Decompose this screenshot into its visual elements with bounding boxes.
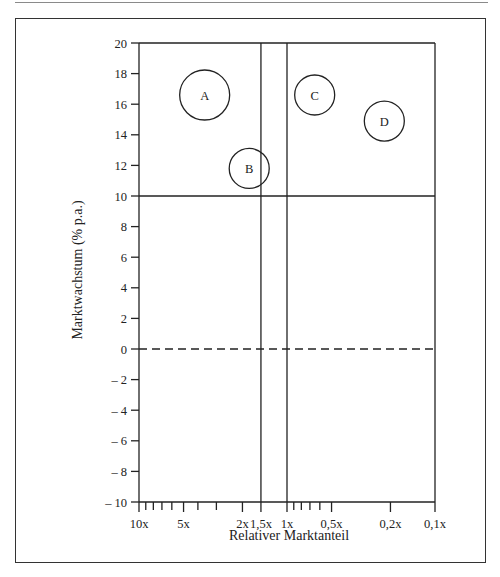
y-tick-label: 6 — [121, 251, 127, 265]
y-tick-label: 8 — [121, 220, 127, 234]
bubble-label: B — [245, 162, 253, 176]
x-tick-label: 10x — [130, 517, 150, 531]
bubble-label: A — [200, 89, 209, 103]
y-tick-label: – 2 — [110, 373, 127, 387]
plot-area: 20181614121086420– 2– 4– 6– 8– 1010x5x2x… — [104, 37, 447, 532]
y-tick-label: 12 — [115, 159, 128, 173]
y-tick-label: – 10 — [104, 496, 127, 510]
y-tick-label: 0 — [121, 343, 127, 357]
bubble-label: C — [311, 89, 319, 103]
y-tick-label: 4 — [121, 281, 128, 295]
y-tick-label: 14 — [115, 128, 128, 142]
y-tick-label: 16 — [115, 98, 128, 112]
x-tick-label: 0,2x — [380, 517, 403, 531]
y-tick-label: – 8 — [110, 465, 127, 479]
y-tick-label: 2 — [121, 312, 127, 326]
x-tick-label: 0,1x — [424, 517, 447, 531]
y-tick-label: 18 — [115, 67, 128, 81]
y-tick-label: – 4 — [110, 404, 127, 418]
bcg-matrix-chart: 20181614121086420– 2– 4– 6– 8– 1010x5x2x… — [0, 0, 500, 577]
bubble-label: D — [380, 115, 389, 129]
y-axis-title: Marktwachstum (% p.a.) — [70, 200, 86, 340]
y-tick-label: 20 — [115, 37, 128, 51]
y-tick-label: 10 — [115, 190, 128, 204]
x-tick-label: 5x — [177, 517, 190, 531]
x-axis-title: Relativer Marktanteil — [229, 528, 349, 543]
y-tick-label: – 6 — [110, 434, 127, 448]
